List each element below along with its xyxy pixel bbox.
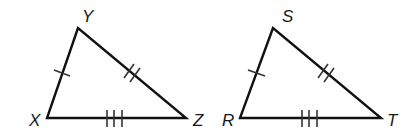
vertex-label-y: Y [82, 7, 95, 26]
triangle-xyz: Y X Z [28, 7, 204, 130]
vertex-label-z: Z [192, 111, 204, 130]
vertex-label-x: X [28, 111, 41, 130]
vertex-label-t: T [387, 111, 399, 130]
triangle-xyz-outline [47, 28, 186, 118]
vertex-label-r: R [222, 111, 234, 130]
vertex-label-s: S [282, 7, 294, 26]
triangle-rst: S R T [222, 7, 399, 130]
triangle-rst-outline [240, 28, 381, 118]
congruent-triangles-diagram: Y X Z S R T [0, 0, 415, 137]
